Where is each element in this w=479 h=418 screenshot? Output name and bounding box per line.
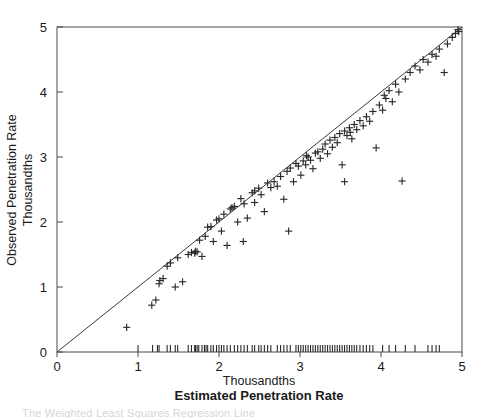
data-point bbox=[123, 324, 130, 331]
data-point bbox=[220, 211, 227, 218]
data-point bbox=[234, 218, 241, 225]
data-point bbox=[152, 296, 159, 303]
data-point bbox=[373, 144, 380, 151]
x-tick-label: 0 bbox=[53, 359, 60, 374]
data-point bbox=[210, 238, 217, 245]
data-point bbox=[329, 144, 336, 151]
data-point bbox=[369, 108, 376, 115]
y-axis-title: Observed Penetration Rate bbox=[5, 114, 19, 266]
data-point bbox=[309, 165, 316, 172]
data-point bbox=[241, 200, 248, 207]
data-point bbox=[167, 259, 174, 266]
data-point bbox=[366, 118, 373, 125]
data-point bbox=[392, 81, 399, 88]
data-point bbox=[376, 101, 383, 108]
data-point bbox=[287, 164, 294, 171]
data-point bbox=[174, 254, 181, 261]
data-point bbox=[285, 228, 292, 235]
data-point bbox=[356, 117, 363, 124]
y-tick-label: 3 bbox=[40, 150, 47, 165]
x-tick-label: 3 bbox=[296, 359, 303, 374]
data-point bbox=[270, 178, 277, 185]
data-point-markers bbox=[123, 26, 462, 331]
data-point bbox=[441, 69, 448, 76]
y-tick-label: 0 bbox=[40, 345, 47, 360]
data-point bbox=[224, 242, 231, 249]
data-point bbox=[283, 168, 290, 175]
data-point bbox=[261, 208, 268, 215]
identity-reference-line bbox=[57, 27, 462, 352]
data-point bbox=[196, 237, 203, 244]
data-point bbox=[297, 172, 304, 179]
data-point bbox=[172, 283, 179, 290]
y-tick-label: 5 bbox=[40, 20, 47, 35]
penetration-rate-scatter-chart: 012345 012345 Thousandths Estimated Pene… bbox=[0, 0, 479, 418]
figure-caption-partial: The Weighted Least Squares Regression Li… bbox=[0, 407, 479, 418]
data-point bbox=[339, 161, 346, 168]
data-point bbox=[240, 238, 247, 245]
x-axis-ticks bbox=[57, 352, 462, 357]
x-axis-title: Estimated Penetration Rate bbox=[174, 388, 343, 403]
y-tick-label: 1 bbox=[40, 280, 47, 295]
x-axis-rug-marks bbox=[138, 345, 439, 352]
y-axis-units-label: Thousandths bbox=[21, 154, 35, 226]
data-point bbox=[267, 184, 274, 191]
data-point bbox=[202, 233, 209, 240]
data-point bbox=[324, 150, 331, 157]
data-point bbox=[258, 191, 265, 198]
data-point bbox=[164, 263, 171, 270]
y-tick-label: 4 bbox=[40, 85, 47, 100]
y-tick-label: 2 bbox=[40, 215, 47, 230]
y-axis-tick-labels: 012345 bbox=[40, 20, 47, 360]
x-tick-label: 5 bbox=[458, 359, 465, 374]
data-point bbox=[382, 95, 389, 102]
data-point bbox=[346, 124, 353, 131]
x-tick-label: 4 bbox=[377, 359, 384, 374]
data-point bbox=[407, 69, 414, 76]
data-point bbox=[398, 177, 405, 184]
x-axis-tick-labels: 012345 bbox=[53, 359, 465, 374]
data-point bbox=[277, 173, 284, 180]
data-point bbox=[360, 122, 367, 129]
data-point bbox=[280, 196, 287, 203]
data-point bbox=[274, 183, 281, 190]
data-point bbox=[179, 278, 186, 285]
data-point bbox=[198, 253, 205, 260]
data-point bbox=[444, 40, 451, 47]
data-point bbox=[251, 199, 258, 206]
data-point bbox=[148, 302, 155, 309]
data-point bbox=[290, 178, 297, 185]
x-tick-label: 2 bbox=[215, 359, 222, 374]
data-point bbox=[237, 195, 244, 202]
x-axis-units-label: Thousandths bbox=[223, 374, 295, 388]
data-point bbox=[347, 129, 354, 136]
data-point bbox=[363, 113, 370, 120]
data-point bbox=[395, 88, 402, 95]
data-point bbox=[379, 107, 386, 114]
data-point bbox=[303, 152, 310, 159]
data-point bbox=[416, 66, 423, 73]
data-point bbox=[317, 155, 324, 162]
x-tick-label: 1 bbox=[134, 359, 141, 374]
data-point bbox=[155, 280, 162, 287]
data-point bbox=[389, 98, 396, 105]
data-point bbox=[436, 46, 443, 53]
data-point bbox=[386, 87, 393, 94]
y-axis-ticks bbox=[57, 27, 63, 352]
data-point bbox=[449, 34, 456, 41]
data-point bbox=[402, 75, 409, 82]
data-point bbox=[381, 92, 388, 99]
data-point bbox=[348, 135, 355, 142]
data-point bbox=[204, 224, 211, 231]
data-point bbox=[207, 223, 214, 230]
data-point bbox=[218, 228, 225, 235]
data-point bbox=[244, 215, 251, 222]
data-point bbox=[341, 178, 348, 185]
data-point bbox=[411, 62, 418, 69]
scatter-plot-figure: 012345 012345 Thousandths Estimated Pene… bbox=[0, 0, 479, 418]
